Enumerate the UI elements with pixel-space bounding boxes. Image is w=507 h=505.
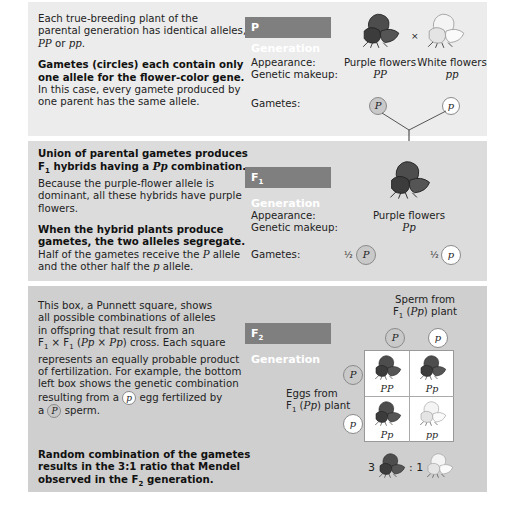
ratio-separator: : 1: [409, 462, 423, 474]
text-line: F1 hybrids having a Pp combination.: [38, 160, 248, 177]
text: :: [409, 461, 413, 474]
text-line: This box, a Punnett square, shows: [38, 300, 241, 312]
gametes-label: Gametes:: [251, 249, 300, 261]
gamete-recessive: p: [441, 245, 461, 265]
inline-gamete-recessive: p: [122, 391, 136, 405]
subscript: 1: [259, 178, 264, 186]
ratio-dominant-count: 3: [368, 462, 375, 474]
text: Half of the gametes receive the: [38, 249, 203, 260]
text-line: Random combination of the gametes: [38, 449, 250, 461]
f1-genotype: Pp: [366, 222, 452, 234]
text: combination.: [168, 161, 247, 172]
text-line: Eggs from: [286, 388, 350, 400]
text: (: [74, 337, 81, 348]
allele: P: [203, 249, 210, 260]
text: F: [251, 171, 259, 184]
text: observed in the F: [38, 474, 139, 485]
text: a: [38, 405, 47, 416]
punnett-cell-Pp: Pp: [365, 397, 410, 442]
f1-appearance: Purple flowers: [366, 210, 452, 222]
bold-text: Union of parental gametes produces: [38, 148, 248, 159]
text-line: represents an equally probable product: [38, 354, 241, 366]
bold-text: gametes, the two alleles segregate.: [38, 236, 245, 247]
text-line: left box shows the genetic combination: [38, 378, 241, 390]
text: Generation: [251, 353, 320, 366]
text: hybrids having a: [50, 161, 153, 172]
f1-generation-badge: F1 Generation: [245, 167, 331, 188]
text-line: When the hybrid plants produce: [38, 224, 248, 236]
ratio-recessive-count: 1: [416, 461, 423, 474]
bold-text: results in the 3:1 ratio that Mendel: [38, 461, 240, 472]
text-line: Sperm from: [370, 294, 480, 306]
text-line: gametes, the two alleles segregate.: [38, 236, 248, 248]
text: allele.: [160, 261, 194, 272]
text: allele: [210, 249, 241, 260]
text: sperm.: [61, 405, 99, 416]
egg-gamete-recessive: p: [343, 414, 363, 434]
text-line: and the other half the p allele.: [38, 261, 248, 273]
punnett-cell-Pp: Pp: [410, 351, 454, 397]
text-line: observed in the F2 generation.: [38, 474, 250, 490]
f2-conclusion: Random combination of the gametes result…: [38, 449, 250, 490]
fertilization-arrow: [0, 0, 507, 160]
purple-flower-icon: [418, 354, 448, 380]
genotype: Pp: [410, 306, 423, 317]
text-line: dominant, all these hybrids have purple: [38, 190, 248, 202]
text: F: [38, 161, 45, 172]
text-line: results in the 3:1 ratio that Mendel: [38, 461, 250, 473]
f2-generation-badge: F2 Generation: [245, 323, 331, 344]
f1-generation-description: Union of parental gametes produces F1 hy…: [38, 148, 248, 274]
text-line: flowers.: [38, 203, 248, 215]
text-line: all possible combinations of alleles: [38, 312, 241, 324]
text-line: F1 (Pp) plant: [286, 400, 350, 416]
text-line: F1 (Pp) plant: [370, 306, 480, 322]
sperm-gamete-recessive: p: [428, 328, 448, 348]
bold-text: Random combination of the gametes: [38, 449, 250, 460]
sperm-gamete-dominant: P: [385, 328, 405, 348]
subscript: 2: [259, 334, 264, 342]
punnett-square: PP Pp Pp pp: [364, 350, 454, 442]
text: generation.: [143, 474, 213, 485]
purple-flower-icon: [373, 400, 403, 426]
genotype: Pp: [365, 429, 409, 440]
sperm-label: Sperm from F1 (Pp) plant: [370, 294, 480, 322]
text-line: Half of the gametes receive the P allele: [38, 249, 248, 261]
purple-flower-icon: [377, 452, 407, 478]
egg-gamete-dominant: P: [343, 365, 363, 385]
text: plant: [428, 306, 457, 317]
text: plant: [321, 400, 350, 411]
text-line: resulting from a p egg fertilized by: [38, 391, 241, 404]
f2-generation-description: This box, a Punnett square, shows all po…: [38, 300, 241, 417]
subscript: 1: [292, 406, 296, 414]
text-line: Because the purple-flower allele is: [38, 178, 248, 190]
bold-text: When the hybrid plants produce: [38, 224, 224, 235]
text-line: F1 × F1 (Pp × Pp) cross. Each square: [38, 337, 241, 353]
inline-gamete-dominant: P: [47, 404, 61, 418]
text-line: a P sperm.: [38, 404, 241, 417]
punnett-cell-PP: PP: [365, 351, 410, 397]
genotype: Pp: [153, 160, 168, 172]
white-flower-icon: [418, 400, 448, 426]
white-flower-icon: [425, 452, 455, 478]
cross-notation: Pp × Pp: [81, 337, 123, 348]
genotype: pp: [410, 429, 454, 440]
text-line: Union of parental gametes produces: [38, 148, 248, 160]
fraction: ½: [344, 250, 353, 260]
punnett-cell-pp: pp: [410, 397, 454, 442]
genotype: PP: [365, 383, 409, 394]
genotype: Pp: [410, 383, 454, 394]
genetic-makeup-label: Genetic makeup:: [251, 222, 338, 234]
genotype: Pp: [304, 400, 317, 411]
text-line: in offspring that result from an: [38, 325, 241, 337]
f1-purple-flower-icon: [387, 159, 433, 199]
eggs-label: Eggs from F1 (Pp) plant: [286, 388, 350, 416]
text: egg fertilized by: [136, 392, 222, 403]
fraction: ½: [430, 250, 439, 260]
appearance-label: Appearance:: [251, 210, 316, 222]
subscript: 1: [399, 312, 403, 320]
gamete-dominant: P: [356, 245, 376, 265]
text: ) cross. Each square: [123, 337, 226, 348]
text: resulting from a: [38, 392, 122, 403]
text-line: of fertilization. For example, the botto…: [38, 366, 241, 378]
text: Generation: [251, 197, 320, 210]
